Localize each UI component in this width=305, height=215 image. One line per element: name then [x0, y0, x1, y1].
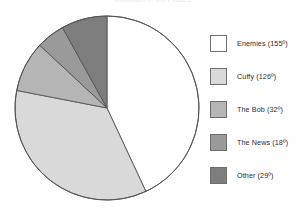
legend-swatch-the-news	[210, 134, 227, 151]
legend-label: Other (29º)	[237, 172, 273, 179]
legend-swatch-enemies	[210, 35, 227, 52]
legend-item[interactable]: The News (18º)	[210, 126, 305, 159]
legend-label: The Bob (32º)	[237, 106, 283, 113]
legend-item[interactable]: Other (29º)	[210, 159, 305, 192]
chart-legend: Enemies (155º) Cuffy (126º) The Bob (32º…	[210, 27, 305, 192]
pie-plot-area	[12, 11, 202, 205]
legend-label: Cuffy (126º)	[237, 73, 276, 80]
legend-swatch-cuffy	[210, 68, 227, 85]
legend-item[interactable]: Enemies (155º)	[210, 27, 305, 60]
pie-chart-figure: proportion of story pages Enemies (155º)…	[0, 0, 305, 215]
legend-item[interactable]: The Bob (32º)	[210, 93, 305, 126]
legend-label: The News (18º)	[237, 139, 288, 146]
legend-label: Enemies (155º)	[237, 40, 288, 47]
legend-item[interactable]: Cuffy (126º)	[210, 60, 305, 93]
clipped-top-caption: proportion of story pages	[0, 0, 305, 2]
pie-svg	[12, 11, 202, 205]
legend-swatch-the-bob	[210, 101, 227, 118]
legend-swatch-other	[210, 167, 227, 184]
